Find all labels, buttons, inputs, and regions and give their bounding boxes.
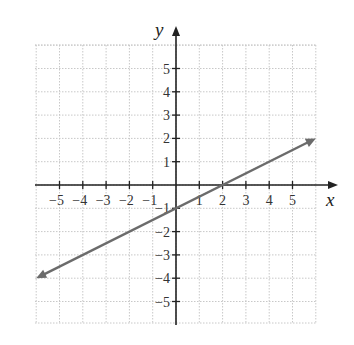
y-tick-label: 4 [163,85,170,100]
x-tick-label: 4 [266,193,273,208]
x-tick-label: 3 [242,193,249,208]
x-tick-label: −3 [96,193,111,208]
y-tick-label: 3 [163,108,170,123]
x-axis-arrow-icon [328,181,338,189]
x-tick-label: −5 [49,193,64,208]
y-axis-arrow-icon [172,26,180,36]
coordinate-plane: −5−4−3−2−112345 54321−1−2−3−4−5 x y [0,0,354,345]
x-tick-label: 2 [219,193,226,208]
y-tick-label: −5 [155,295,170,310]
y-tick-label: −4 [155,271,170,286]
y-axis-label: y [153,19,164,40]
x-axis-label: x [325,189,335,210]
y-tick-label: 1 [163,155,170,170]
x-tick-label: −2 [119,193,134,208]
x-tick-label: −4 [72,193,87,208]
y-tick-label: 5 [163,62,170,77]
y-tick-label: −3 [155,248,170,263]
x-tick-label: 5 [289,193,296,208]
y-tick-label: 2 [163,131,170,146]
x-tick-labels: −5−4−3−2−112345 [49,193,296,208]
y-tick-label: −2 [155,225,170,240]
